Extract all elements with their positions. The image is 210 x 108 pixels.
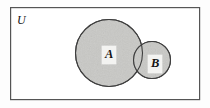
set-b-label: B (148, 55, 162, 73)
universal-set-label: U (17, 14, 26, 26)
set-a-label: A (102, 46, 116, 64)
venn-diagram-figure: U A B (0, 0, 210, 108)
